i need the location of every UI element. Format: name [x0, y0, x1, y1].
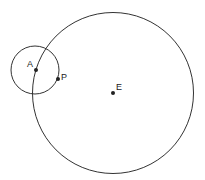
point-p [56, 77, 60, 81]
diagram-canvas: A P E [0, 0, 205, 180]
point-a [34, 68, 38, 72]
label-a: A [27, 59, 33, 69]
point-e [111, 91, 115, 95]
label-p: P [61, 72, 67, 82]
label-e: E [116, 82, 122, 92]
